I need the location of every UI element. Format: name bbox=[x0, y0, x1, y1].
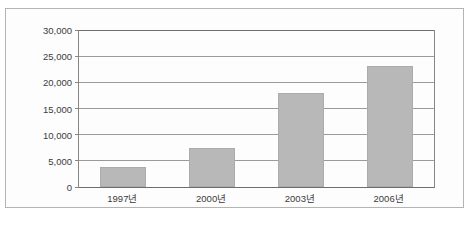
y-axis-tick-mark bbox=[75, 108, 79, 109]
y-axis-tick-label: 20,000 bbox=[12, 77, 72, 88]
y-axis-tick-mark bbox=[75, 82, 79, 83]
y-axis-tick-mark bbox=[75, 160, 79, 161]
y-axis-tick-mark bbox=[75, 56, 79, 57]
bar-2000년 bbox=[189, 148, 235, 187]
y-axis-tick-label: 15,000 bbox=[12, 103, 72, 114]
bar-2006년 bbox=[367, 66, 413, 187]
bar-1997년 bbox=[100, 167, 146, 187]
x-axis-tick-label: 2003년 bbox=[256, 191, 345, 205]
y-axis-tick-labels: 05,00010,00015,00020,00025,00030,000 bbox=[8, 30, 72, 188]
y-axis-tick-label: 0 bbox=[12, 182, 72, 193]
plot-area bbox=[78, 30, 435, 188]
x-axis-tick-label: 2000년 bbox=[167, 191, 256, 205]
y-axis-tick-mark bbox=[75, 30, 79, 31]
y-axis-tick-label: 5,000 bbox=[12, 155, 72, 166]
x-axis-tick-labels: 1997년2000년2003년2006년 bbox=[78, 191, 435, 207]
cutoff-title-text bbox=[150, 0, 330, 3]
chart-figure: 05,00010,00015,00020,00025,00030,000 199… bbox=[0, 0, 473, 227]
y-axis-tick-label: 30,000 bbox=[12, 25, 72, 36]
gridline bbox=[79, 56, 434, 57]
x-axis-tick-label: 1997년 bbox=[78, 191, 167, 205]
y-axis-tick-label: 25,000 bbox=[12, 51, 72, 62]
y-axis-tick-label: 10,000 bbox=[12, 129, 72, 140]
y-axis-tick-mark bbox=[75, 134, 79, 135]
gridline bbox=[79, 30, 434, 31]
x-axis-tick-label: 2006년 bbox=[344, 191, 433, 205]
bar-2003년 bbox=[278, 93, 324, 187]
y-axis-tick-mark bbox=[75, 187, 79, 188]
